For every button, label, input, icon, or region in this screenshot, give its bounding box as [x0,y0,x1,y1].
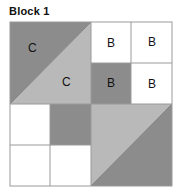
label-c-top: C [28,41,37,55]
label-b-r2c3: B [107,76,115,90]
quilt-block-diagram: C C B B B B [0,0,183,196]
square-r4c1 [10,145,50,186]
label-b-r1c3: B [107,36,115,50]
label-b-r1c4: B [148,35,156,49]
square-r3c1 [10,104,50,145]
square-r3c2 [50,104,91,145]
label-c-mid: C [62,75,71,89]
square-r4c2 [50,145,91,186]
label-b-r2c4: B [148,77,156,91]
